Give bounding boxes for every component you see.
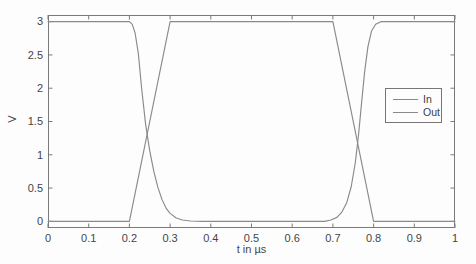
x-tick-label: 0.7 <box>325 232 340 244</box>
y-axis-label: V <box>6 106 18 132</box>
line-chart: 00.10.20.30.40.50.60.70.80.9100.511.522.… <box>0 0 476 264</box>
legend-entry-in: In <box>386 93 441 106</box>
x-tick-label: 0 <box>45 232 51 244</box>
x-tick-label: 0.5 <box>244 232 259 244</box>
x-tick-label: 0.2 <box>122 232 137 244</box>
x-tick-label: 1 <box>452 232 458 244</box>
legend-label-in: In <box>423 93 432 106</box>
legend-label-out: Out <box>423 106 440 119</box>
figure: 00.10.20.30.40.50.60.70.80.9100.511.522.… <box>0 0 476 264</box>
y-tick-label: 0 <box>37 215 43 227</box>
x-tick-label: 0.1 <box>81 232 96 244</box>
x-tick-label: 0.8 <box>366 232 381 244</box>
out-line-sample <box>393 112 418 113</box>
y-tick-label: 3 <box>37 15 43 27</box>
y-tick-label: 0.5 <box>28 182 43 194</box>
x-tick-label: 0.9 <box>407 232 422 244</box>
y-tick-label: 2 <box>37 82 43 94</box>
legend-entry-out: Out <box>386 106 441 119</box>
legend-box: In Out <box>385 88 442 123</box>
x-tick-label: 0.6 <box>285 232 300 244</box>
y-tick-label: 1.5 <box>28 115 43 127</box>
in-line-sample <box>393 99 418 100</box>
x-tick-label: 0.4 <box>203 232 218 244</box>
x-axis-label: t in µs <box>48 243 455 255</box>
y-tick-label: 1 <box>37 149 43 161</box>
x-tick-label: 0.3 <box>162 232 177 244</box>
y-tick-label: 2.5 <box>28 49 43 61</box>
